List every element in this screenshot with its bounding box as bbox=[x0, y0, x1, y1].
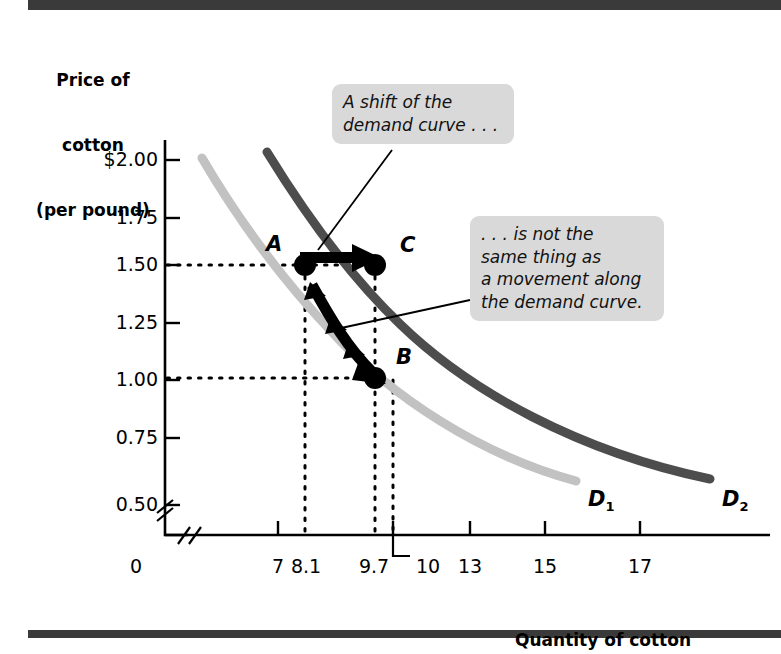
y-tick-label-1-25: 1.25 bbox=[60, 311, 158, 333]
axis-origin-corner bbox=[165, 512, 188, 535]
y-axis-title-line-1: Price of bbox=[28, 70, 158, 92]
callout-shift-line-2: demand curve . . . bbox=[343, 114, 503, 137]
y-tick-label-2-00: $2.00 bbox=[60, 148, 158, 170]
callout-movement-line-3: a movement along bbox=[481, 268, 653, 291]
callout-movement: . . . is not the same thing as a movemen… bbox=[470, 216, 664, 321]
x-tick-10-connector bbox=[393, 535, 410, 556]
curve-label-d1: D1 bbox=[588, 487, 614, 514]
axis-origin-label: 0 bbox=[118, 555, 154, 577]
x-tick-marks bbox=[278, 521, 640, 535]
callout-movement-line-2: same thing as bbox=[481, 246, 653, 269]
y-tick-label-1-00: 1.00 bbox=[60, 368, 158, 390]
curve-label-d2-letter: D bbox=[722, 487, 739, 511]
callout-shift: A shift of the demand curve . . . bbox=[332, 84, 514, 144]
data-point-a[interactable] bbox=[294, 254, 316, 276]
curve-label-d2: D2 bbox=[722, 487, 748, 514]
y-tick-label-0-50: 0.50 bbox=[60, 493, 158, 515]
x-tick-label-10: 10 bbox=[410, 555, 446, 577]
x-tick-label-17: 17 bbox=[622, 555, 658, 577]
point-label-c: C bbox=[400, 233, 415, 257]
x-tick-label-8-1: 8.1 bbox=[283, 555, 329, 577]
callout-movement-line-4: the demand curve. bbox=[481, 291, 653, 314]
x-axis-title-line-1: Quantity of cotton bbox=[448, 630, 758, 652]
point-label-a: A bbox=[266, 232, 282, 256]
x-axis-title: Quantity of cotton (billions of pounds) bbox=[448, 586, 758, 654]
data-point-b[interactable] bbox=[364, 367, 386, 389]
y-tick-label-1-50: 1.50 bbox=[60, 253, 158, 275]
callout-shift-line-1: A shift of the bbox=[343, 91, 503, 114]
point-label-b: B bbox=[396, 345, 412, 369]
guide-lines bbox=[167, 265, 393, 534]
y-tick-marks bbox=[165, 160, 180, 505]
curve-label-d1-letter: D bbox=[588, 487, 605, 511]
x-tick-label-13: 13 bbox=[452, 555, 488, 577]
callout-movement-line-1: . . . is not the bbox=[481, 223, 653, 246]
curve-label-d2-sub: 2 bbox=[739, 499, 748, 514]
y-tick-label-1-75: 1.75 bbox=[60, 206, 158, 228]
callout-shift-leader bbox=[318, 150, 392, 250]
x-tick-label-9-7: 9.7 bbox=[351, 555, 397, 577]
x-tick-label-15: 15 bbox=[527, 555, 563, 577]
data-point-c[interactable] bbox=[364, 254, 386, 276]
curve-label-d1-sub: 1 bbox=[605, 499, 614, 514]
y-tick-label-0-75: 0.75 bbox=[60, 426, 158, 448]
